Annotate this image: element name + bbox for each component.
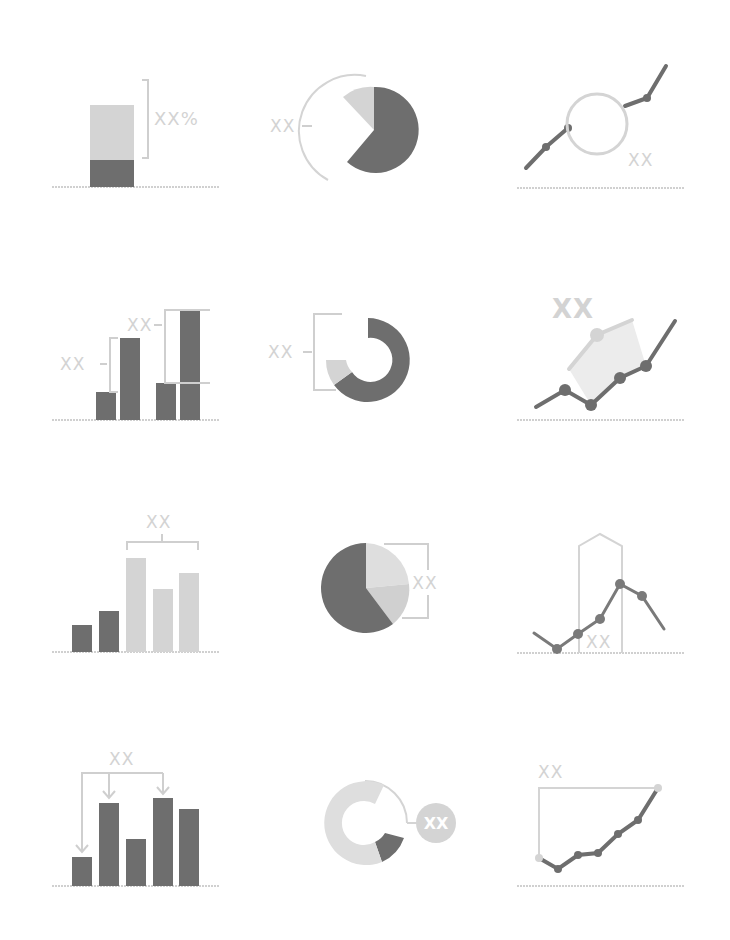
donut-bracket-icon: XX — [266, 308, 426, 418]
line-range-highlight-icon: XX — [512, 522, 692, 657]
arrows-label: XX — [109, 749, 134, 769]
pie-arc-callout-icon: XX — [268, 72, 428, 192]
bar-pairs-difference-icon: XX XX — [50, 300, 230, 425]
group-label: XX — [146, 512, 171, 532]
pie-label: XX — [270, 116, 295, 136]
stacked-bar-percent-icon: XX% — [50, 75, 230, 195]
badge-label: XX — [424, 814, 449, 833]
line-projection-icon: XX — [512, 290, 692, 425]
difference-label-a: XX — [60, 354, 85, 374]
donut-label: XX — [268, 342, 293, 362]
pie-bracket-label: XX — [412, 573, 437, 593]
circle-label: XX — [628, 150, 653, 170]
projection-label: XX — [552, 294, 594, 324]
bar-group-bracket-icon: XX — [50, 508, 230, 658]
range-label: XX — [586, 632, 611, 652]
line-growth-range-icon: XX — [512, 758, 692, 893]
growth-label: XX — [538, 762, 563, 782]
percent-label: XX% — [154, 108, 199, 129]
donut-badge-icon: XX — [320, 778, 470, 868]
difference-label-b: XX — [127, 315, 152, 335]
bar-arrows-icon: XX — [50, 745, 230, 890]
line-circle-highlight-icon: XX — [512, 58, 692, 198]
pie-bracket-icon: XX — [318, 540, 468, 635]
